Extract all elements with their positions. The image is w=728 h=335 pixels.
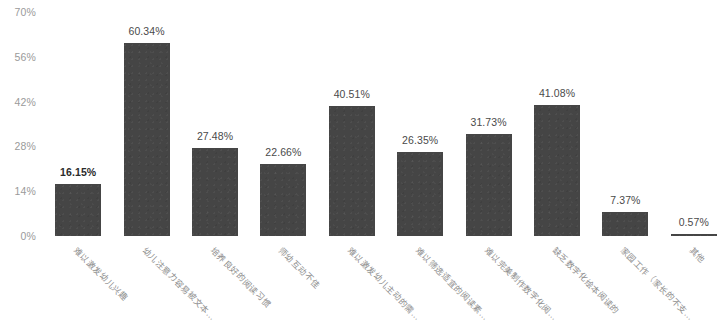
x-axis-label: 师幼互动不佳 bbox=[277, 246, 322, 291]
x-axis: 难以激发幼儿兴趣幼儿注意力容易被文本…培养良好的阅读习惯师幼互动不佳难以激发幼儿… bbox=[44, 240, 728, 335]
y-axis: 70% 56% 42% 28% 14% 0% bbox=[0, 0, 44, 240]
plot-area: 16.15%60.34%27.48%22.66%40.51%26.35%31.7… bbox=[44, 0, 728, 240]
bar-value-label: 26.35% bbox=[402, 134, 438, 146]
bar[interactable] bbox=[534, 105, 580, 236]
bar-slot: 40.51% bbox=[318, 12, 386, 236]
x-axis-label-slot: 难以完美制作数字化阅… bbox=[454, 240, 522, 335]
x-axis-label-slot: 难以激发幼儿主动的需… bbox=[318, 240, 386, 335]
bar[interactable] bbox=[397, 152, 443, 236]
bar-value-label: 31.73% bbox=[470, 116, 506, 128]
x-axis-label-slot: 缺乏数字化绘本阅读的 bbox=[523, 240, 591, 335]
bar-slot: 0.57% bbox=[660, 12, 728, 236]
bar-value-label: 0.57% bbox=[679, 216, 709, 228]
x-axis-label-slot: 难以激发幼儿兴趣 bbox=[44, 240, 112, 335]
y-axis-tick: 42% bbox=[14, 96, 36, 108]
x-axis-label-slot: 难以筛选适宜的阅读素… bbox=[386, 240, 454, 335]
y-axis-tick: 70% bbox=[14, 6, 36, 18]
bar-slot: 16.15% bbox=[44, 12, 112, 236]
bar-slot: 60.34% bbox=[112, 12, 180, 236]
x-axis-label-slot: 培养良好的阅读习惯 bbox=[181, 240, 249, 335]
y-axis-tick: 14% bbox=[14, 185, 36, 197]
bar[interactable] bbox=[260, 164, 306, 237]
y-axis-tick: 56% bbox=[14, 51, 36, 63]
bar-value-label: 40.51% bbox=[334, 88, 370, 100]
bar-value-label: 22.66% bbox=[265, 146, 301, 158]
bar-slot: 26.35% bbox=[386, 12, 454, 236]
x-axis-label-slot: 师幼互动不佳 bbox=[249, 240, 317, 335]
bar-slot: 27.48% bbox=[181, 12, 249, 236]
bar[interactable] bbox=[124, 43, 170, 236]
bar-slot: 31.73% bbox=[454, 12, 522, 236]
bar-value-label: 7.37% bbox=[610, 194, 640, 206]
bar[interactable] bbox=[329, 106, 375, 236]
bar-slot: 22.66% bbox=[249, 12, 317, 236]
bar[interactable] bbox=[466, 134, 512, 236]
bar[interactable] bbox=[192, 148, 238, 236]
bar-value-label: 60.34% bbox=[128, 25, 164, 37]
bar-slot: 7.37% bbox=[591, 12, 659, 236]
bar-value-label: 16.15% bbox=[60, 166, 96, 178]
bar-slot: 41.08% bbox=[523, 12, 591, 236]
bar[interactable] bbox=[602, 212, 648, 236]
y-axis-tick: 0% bbox=[20, 230, 36, 242]
bar[interactable] bbox=[55, 184, 101, 236]
bar[interactable] bbox=[671, 234, 717, 236]
x-axis-label-slot: 幼儿注意力容易被文本… bbox=[112, 240, 180, 335]
bar-value-label: 41.08% bbox=[539, 87, 575, 99]
bar-chart: 70% 56% 42% 28% 14% 0% 16.15%60.34%27.48… bbox=[0, 0, 728, 335]
x-axis-label-slot: 家园工作（家长的不支… bbox=[591, 240, 659, 335]
y-axis-tick: 28% bbox=[14, 140, 36, 152]
bars-container: 16.15%60.34%27.48%22.66%40.51%26.35%31.7… bbox=[44, 12, 728, 236]
x-axis-label: 其他 bbox=[687, 246, 706, 265]
x-axis-label-slot: 其他 bbox=[660, 240, 728, 335]
bar-value-label: 27.48% bbox=[197, 130, 233, 142]
